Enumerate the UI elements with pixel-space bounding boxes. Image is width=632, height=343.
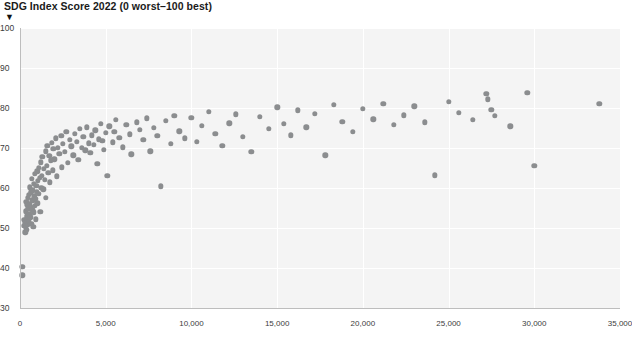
x-tick-label: 35,000 [608,319,632,328]
data-point [288,132,293,137]
x-tick-label: 30,000 [522,319,546,328]
data-point [240,134,245,139]
data-point [93,128,98,133]
data-point [81,134,86,139]
gridline-vertical [363,28,364,308]
data-point [124,122,129,127]
gridline-vertical [106,28,107,308]
data-point [35,200,40,205]
data-point [194,139,199,144]
data-point [113,117,118,122]
data-point [350,129,355,134]
gridline-horizontal [20,268,620,269]
data-point [206,109,211,114]
data-point [43,195,48,200]
data-point [456,110,461,115]
data-point [44,163,49,168]
data-point [31,210,36,215]
gridline-vertical [277,28,278,308]
data-point [72,131,77,136]
y-tick-label: 90 [0,64,18,73]
data-point [137,127,142,132]
data-point [340,119,345,124]
data-point [89,132,94,137]
data-point [134,120,139,125]
data-point [67,137,72,142]
y-tick-label: 70 [0,144,18,153]
gridline-vertical [191,28,192,308]
gridline-horizontal [20,188,620,189]
data-point [84,124,89,129]
data-point [485,96,490,101]
x-tick-label: 20,000 [351,319,375,328]
data-point [401,112,406,117]
x-tick-label: 25,000 [436,319,460,328]
data-point [120,144,125,149]
data-point [36,191,41,196]
y-tick-label: 60 [0,184,18,193]
y-tick-label: 40 [0,264,18,273]
data-point [50,168,55,173]
data-point [103,130,108,135]
data-point [40,186,45,191]
gridline-horizontal [20,148,620,149]
data-point [49,140,54,145]
y-tick-label: 100 [0,24,18,33]
gridline-horizontal [20,108,620,109]
data-point [74,139,79,144]
data-point [60,141,65,146]
data-point [148,148,153,153]
triangle-down-icon: ▼ [5,13,504,21]
data-point [105,173,110,178]
x-tick-label: 0 [18,319,22,328]
data-point [322,152,327,157]
data-point [257,114,262,119]
data-point [64,129,69,134]
data-point [77,126,82,131]
data-point [98,121,103,126]
data-point [281,121,286,126]
y-tick-label: 80 [0,104,18,113]
data-point [381,101,386,106]
data-point [55,145,60,150]
data-point [47,180,52,185]
y-tick-label: 50 [0,224,18,233]
data-point [508,124,513,129]
x-tick-label: 5,000 [96,319,116,328]
data-point [94,161,99,166]
data-point [154,133,159,138]
data-point [226,120,231,125]
data-point [129,152,134,157]
data-point [360,106,365,111]
gridline-vertical [620,28,621,308]
data-point [189,115,194,120]
data-point [489,107,494,112]
data-point [182,136,187,141]
data-point [295,108,300,113]
data-point [91,142,96,147]
data-point [484,91,489,96]
data-point [38,209,43,214]
data-point [446,99,451,104]
data-point [199,123,204,128]
data-point [266,126,271,131]
y-axis-line [20,28,21,309]
data-point [163,118,168,123]
page-title: SDG Index Score 2022 (0 worst–100 best) [4,1,504,12]
data-point [274,104,279,109]
data-point [88,150,93,155]
data-point [59,164,64,169]
x-tick-label: 10,000 [179,319,203,328]
data-point [112,129,117,134]
gridline-vertical [449,28,450,308]
data-point [249,149,254,154]
data-point [70,152,75,157]
data-point [54,174,59,179]
data-point [65,160,70,165]
data-point [100,138,105,143]
y-tick-label: 30 [0,304,18,313]
gridline-horizontal [20,68,620,69]
data-point [304,124,309,129]
data-point [62,149,67,154]
